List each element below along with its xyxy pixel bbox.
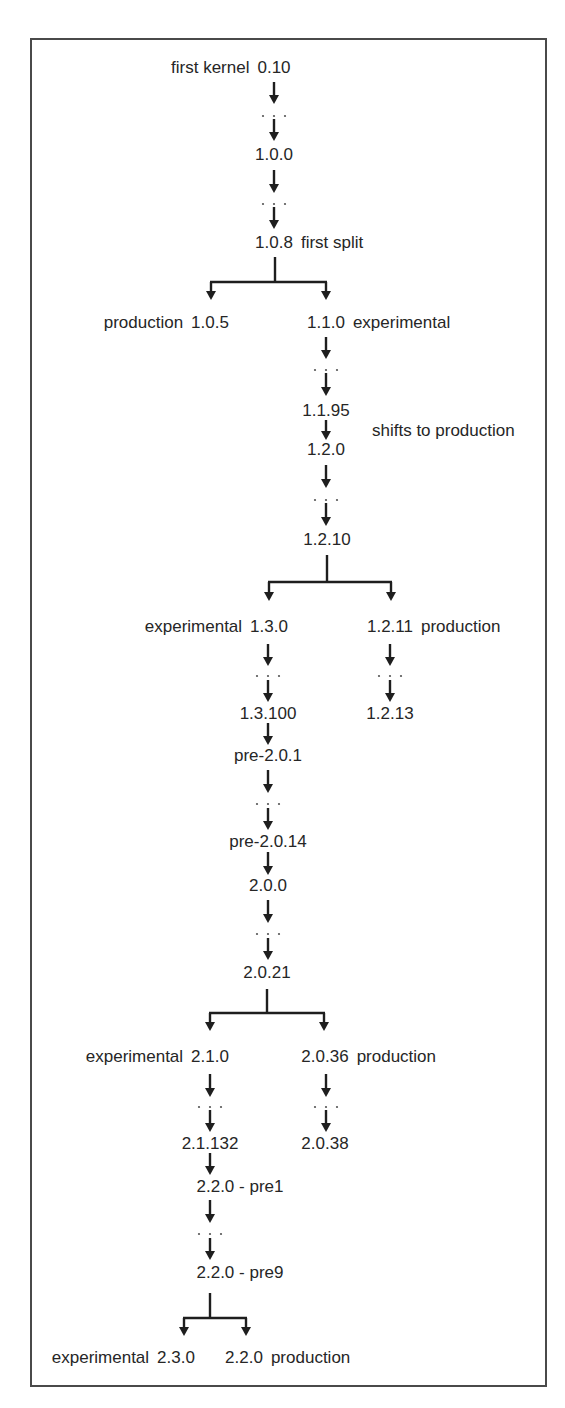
ellipsis-dot xyxy=(209,1233,211,1235)
arrow-head xyxy=(321,1088,331,1097)
arrow-head xyxy=(269,184,279,193)
arrow-head xyxy=(321,1123,331,1132)
branch-note-label: production xyxy=(421,617,500,636)
arrow-head xyxy=(269,132,279,141)
ellipsis-icon xyxy=(262,203,286,205)
version-label: 1.0.8 xyxy=(255,233,293,253)
arrow-head xyxy=(263,693,273,702)
ellipsis-dot xyxy=(278,803,280,805)
arrow-head xyxy=(321,387,331,396)
down-arrow-icon xyxy=(263,644,273,666)
ellipsis-dot xyxy=(267,933,269,935)
ellipsis-dot xyxy=(267,675,269,677)
version-label: 1.1.95 xyxy=(302,401,349,421)
branch-note-label: production xyxy=(357,1047,436,1066)
ellipsis-dot xyxy=(209,1106,211,1108)
version-node: 2.0.21 xyxy=(243,963,290,983)
version-label: 2.1.0 xyxy=(191,1047,229,1067)
version-label: 2.2.0 - pre9 xyxy=(197,1263,284,1283)
down-arrow-icon xyxy=(319,1022,329,1031)
version-node: 2.2.0production xyxy=(225,1348,350,1368)
arrow-head xyxy=(263,784,273,793)
arrow-head xyxy=(385,693,395,702)
version-node: 1.0.0 xyxy=(255,145,293,165)
version-node: pre-2.0.1 xyxy=(234,746,302,766)
arrow-head xyxy=(205,1123,215,1132)
branch-split-connector xyxy=(264,555,396,601)
arrow-head xyxy=(321,350,331,359)
version-node: 1.2.10 xyxy=(303,530,350,550)
down-arrow-icon xyxy=(205,1153,215,1175)
down-arrow-icon xyxy=(264,592,274,601)
branch-split-connector xyxy=(179,1293,251,1336)
ellipsis-dot xyxy=(267,803,269,805)
ellipsis-dot xyxy=(400,675,402,677)
branch-note-label: experimental xyxy=(52,1348,149,1367)
version-node: 1.2.0 xyxy=(307,440,345,460)
arrow-head xyxy=(321,431,331,440)
version-node: 2.2.0 - pre9 xyxy=(197,1263,284,1283)
ellipsis-dot xyxy=(198,1106,200,1108)
arrow-head xyxy=(321,517,331,526)
version-node: 2.2.0 - pre1 xyxy=(197,1177,284,1197)
version-node: 1.1.0experimental xyxy=(307,313,450,333)
ellipsis-dot xyxy=(262,115,264,117)
version-node: 1.1.95 xyxy=(302,401,349,421)
version-label: 1.3.0 xyxy=(250,617,288,637)
ellipsis-dot xyxy=(278,933,280,935)
ellipsis-dot xyxy=(273,203,275,205)
down-arrow-icon xyxy=(321,503,331,526)
version-label: 2.0.0 xyxy=(249,876,287,896)
ellipsis-dot xyxy=(336,369,338,371)
version-node: 2.1.132 xyxy=(182,1134,239,1154)
ellipsis-icon xyxy=(256,803,280,805)
ellipsis-dot xyxy=(198,1233,200,1235)
ellipsis-dot xyxy=(273,115,275,117)
down-arrow-icon xyxy=(263,938,273,960)
version-label: pre-2.0.14 xyxy=(229,832,307,852)
ellipsis-dot xyxy=(336,1106,338,1108)
version-node: production1.0.5 xyxy=(104,313,229,333)
arrow-head xyxy=(263,657,273,666)
down-arrow-icon xyxy=(321,1074,331,1097)
version-label: 2.0.21 xyxy=(243,963,290,983)
branch-note-label: first kernel xyxy=(171,58,249,77)
ellipsis-dot xyxy=(220,1106,222,1108)
down-arrow-icon xyxy=(179,1327,189,1336)
arrow-head xyxy=(205,1214,215,1223)
down-arrow-icon xyxy=(269,82,279,104)
version-tree-diagram: first kernel0.101.0.01.0.8first splitpro… xyxy=(0,0,565,1408)
ellipsis-dot xyxy=(256,675,258,677)
version-label: 1.2.13 xyxy=(366,704,413,724)
ellipsis-dot xyxy=(284,115,286,117)
down-arrow-icon xyxy=(263,680,273,702)
ellipsis-dot xyxy=(325,369,327,371)
arrow-head xyxy=(263,866,273,875)
version-node: experimental2.3.0 xyxy=(52,1348,195,1368)
down-arrow-icon xyxy=(205,1022,215,1031)
arrow-head xyxy=(321,479,331,488)
ellipsis-icon xyxy=(256,675,280,677)
version-label: 2.1.132 xyxy=(182,1134,239,1154)
down-arrow-icon xyxy=(206,291,216,300)
ellipsis-dot xyxy=(220,1233,222,1235)
arrow-head xyxy=(269,95,279,104)
arrow-head xyxy=(263,736,273,745)
arrow-head xyxy=(205,1251,215,1260)
version-label: 2.3.0 xyxy=(157,1348,195,1368)
version-node: 2.0.36production xyxy=(301,1047,436,1067)
down-arrow-icon xyxy=(269,119,279,141)
down-arrow-icon xyxy=(321,465,331,488)
down-arrow-icon xyxy=(321,420,331,440)
ellipsis-dot xyxy=(256,803,258,805)
down-arrow-icon xyxy=(263,900,273,923)
version-node: 1.0.8first split xyxy=(255,233,363,253)
down-arrow-icon xyxy=(385,680,395,702)
ellipsis-icon xyxy=(314,1106,338,1108)
version-node: experimental1.3.0 xyxy=(145,617,288,637)
down-arrow-icon xyxy=(205,1238,215,1260)
down-arrow-icon xyxy=(269,170,279,193)
arrow-head xyxy=(263,821,273,830)
branch-split-connector xyxy=(206,257,331,300)
branch-note-label: experimental xyxy=(86,1047,183,1066)
